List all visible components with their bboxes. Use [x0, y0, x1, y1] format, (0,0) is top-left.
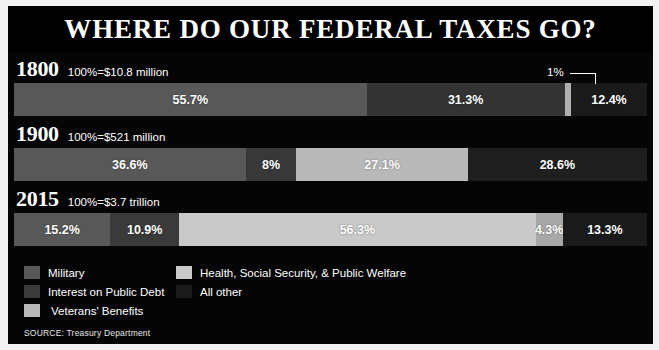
legend-swatch-icon [24, 266, 40, 279]
callout-label-1-percent: 1% [547, 66, 564, 78]
bar-segment-military[interactable]: 55.7% [14, 83, 367, 116]
legend-swatch-icon [24, 285, 40, 298]
chart-row-2015: 2015 100%=$3.7 trillion 15.2% 10.9% 56.3… [8, 188, 653, 246]
bar-segment-label: 56.3% [340, 223, 375, 237]
legend-swatch-icon [176, 266, 192, 279]
row-header-1900: 1900 100%=$521 million [8, 123, 653, 148]
legend-item-interest-on-public-debt[interactable]: Interest on Public Debt [24, 283, 164, 300]
source-note: SOURCE: Treasury Department [24, 328, 150, 338]
stacked-bar-1900: 36.6% 8% 27.1% 28.6% [14, 148, 647, 181]
bar-segment-all-other[interactable]: 28.6% [468, 148, 647, 181]
bar-segment-label: 8% [262, 158, 280, 172]
bar-segment-label: 55.7% [173, 93, 208, 107]
legend-item-all-other[interactable]: All other [176, 283, 406, 300]
bar-segment-health[interactable]: 56.3% [179, 213, 535, 246]
bar-segment-military[interactable]: 36.6% [14, 148, 246, 181]
legend-item-label: All other [200, 286, 242, 298]
legend-swatch-icon [24, 304, 40, 317]
legend-item-veterans-benefits[interactable]: Veterans' Benefits [24, 302, 164, 319]
bar-segment-label: 28.6% [540, 158, 575, 172]
page-title: WHERE DO OUR FEDERAL TAXES GO? [64, 14, 596, 45]
legend-column-left: Military Interest on Public Debt Veteran… [24, 264, 164, 321]
legend-swatch-icon [176, 285, 192, 298]
chart-panel: WHERE DO OUR FEDERAL TAXES GO? 1800 100%… [8, 6, 653, 344]
legend-item-label: Interest on Public Debt [48, 286, 164, 298]
legend-item-health-social-security-public-welfare[interactable]: Health, Social Security, & Public Welfar… [176, 264, 406, 281]
row-total-note: 100%=$521 million [68, 130, 166, 144]
bar-segment-label: 15.2% [44, 223, 79, 237]
bar-segment-label: 13.3% [587, 223, 622, 237]
bar-segment-interest[interactable]: 31.3% [367, 83, 565, 116]
bar-segment-label: 12.4% [591, 93, 626, 107]
bar-segment-interest[interactable]: 10.9% [110, 213, 179, 246]
bar-segment-military[interactable]: 15.2% [14, 213, 110, 246]
stacked-bar-1800: 55.7% 31.3% 12.4% [14, 83, 647, 116]
bar-segment-label: 31.3% [448, 93, 483, 107]
legend-item-label: Veterans' Benefits [51, 305, 143, 317]
callout-leader-line-horizontal [570, 73, 596, 74]
row-total-note: 100%=$3.7 trillion [68, 195, 160, 209]
chart-row-1800: 1800 100%=$10.8 million 55.7% 31.3% 12.4… [8, 58, 653, 116]
bar-segment-label: 36.6% [112, 158, 147, 172]
callout-leader-line-vertical [595, 73, 596, 84]
title-bar: WHERE DO OUR FEDERAL TAXES GO? [8, 6, 653, 52]
legend-item-military[interactable]: Military [24, 264, 164, 281]
bar-segment-veterans[interactable]: 4.3% [536, 213, 563, 246]
bar-segment-interest[interactable]: 8% [246, 148, 297, 181]
bar-segment-label: 4.3% [535, 223, 564, 237]
legend-item-label: Military [48, 267, 84, 279]
stacked-bar-2015: 15.2% 10.9% 56.3% 4.3% 13.3% [14, 213, 647, 246]
row-year-label: 1800 [16, 58, 59, 80]
legend-column-right: Health, Social Security, & Public Welfar… [176, 264, 406, 302]
legend-item-label: Health, Social Security, & Public Welfar… [200, 267, 406, 279]
bar-segment-veterans[interactable]: 27.1% [296, 148, 468, 181]
bar-segment-all-other[interactable]: 12.4% [571, 83, 647, 116]
bar-segment-label: 10.9% [127, 223, 162, 237]
bar-segment-label: 27.1% [364, 158, 399, 172]
row-total-note: 100%=$10.8 million [68, 65, 169, 79]
chart-row-1900: 1900 100%=$521 million 36.6% 8% 27.1% 28… [8, 123, 653, 181]
row-header-2015: 2015 100%=$3.7 trillion [8, 188, 653, 213]
bar-segment-all-other[interactable]: 13.3% [563, 213, 647, 246]
row-year-label: 1900 [16, 123, 59, 145]
infographic-root: WHERE DO OUR FEDERAL TAXES GO? 1800 100%… [0, 0, 659, 350]
row-year-label: 2015 [16, 188, 59, 210]
